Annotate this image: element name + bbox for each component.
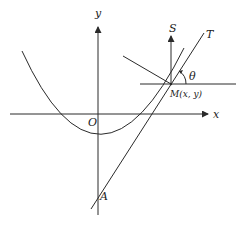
tangent-line	[91, 33, 204, 209]
t-label: T	[206, 28, 215, 41]
origin-label: O	[88, 116, 97, 129]
point-a-label: A	[99, 190, 108, 203]
point-m	[170, 83, 172, 85]
x-axis-label: x	[213, 108, 220, 121]
s-label: S	[169, 22, 177, 35]
theta-label: θ	[189, 70, 196, 83]
diagram-canvas: y x O S T θ M(x, y) A	[0, 0, 238, 226]
theta-arc	[179, 71, 186, 84]
y-axis-label: y	[94, 7, 102, 20]
parabola-curve	[22, 48, 184, 134]
point-m-label: M(x, y)	[169, 89, 203, 99]
normal-line	[123, 56, 171, 84]
